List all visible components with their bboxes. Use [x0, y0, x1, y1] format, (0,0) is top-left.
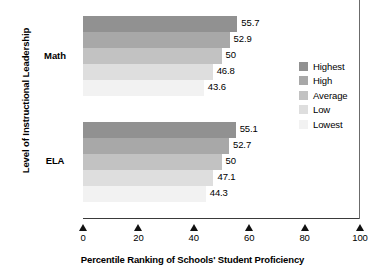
bar-row: 47.1	[83, 170, 360, 186]
bar-value-math-highest: 55.7	[241, 17, 259, 28]
triangle-marker-icon	[134, 224, 142, 231]
y-axis-title: Level of Instructional Leadership	[20, 1, 31, 201]
legend-item-lowest: Lowest	[299, 117, 348, 132]
legend-item-highest: Highest	[299, 59, 348, 74]
x-tick-100: 100	[340, 224, 380, 243]
x-axis-line	[83, 218, 360, 219]
x-tick-80: 80	[285, 224, 325, 243]
legend-label: Average	[313, 90, 348, 101]
plot-right-border	[359, 0, 360, 219]
legend-label: Highest	[313, 61, 345, 72]
category-label-ela: ELA	[30, 155, 80, 166]
legend-swatch-icon	[299, 62, 308, 71]
bar-row: 44.3	[83, 186, 360, 202]
bar-ela-average	[83, 154, 222, 170]
legend-label: Lowest	[313, 119, 343, 130]
x-tick-label: 80	[285, 232, 325, 243]
bar-row: 52.7	[83, 138, 360, 154]
bar-value-ela-lowest: 44.3	[210, 187, 228, 198]
bar-value-math-average: 50	[226, 49, 236, 60]
legend-swatch-icon	[299, 120, 308, 129]
bar-value-math-lowest: 43.6	[208, 81, 226, 92]
bar-value-math-high: 52.9	[234, 33, 252, 44]
x-tick-label: 0	[63, 232, 103, 243]
x-tick-60: 60	[229, 224, 269, 243]
bar-chart: Level of Instructional Leadership Math E…	[0, 0, 385, 276]
bar-value-math-low: 46.8	[217, 65, 235, 76]
x-tick-0: 0	[63, 224, 103, 243]
bar-row: 52.9	[83, 32, 360, 48]
bar-math-highest	[83, 16, 237, 32]
bar-group-ela: 55.1 52.7 50 47.1 44.3	[83, 122, 360, 202]
bar-row: 55.7	[83, 16, 360, 32]
x-tick-label: 100	[340, 232, 380, 243]
legend: Highest High Average Low Lowest	[299, 59, 348, 132]
bar-value-ela-highest: 55.1	[240, 123, 258, 134]
legend-swatch-icon	[299, 105, 308, 114]
bar-value-ela-low: 47.1	[217, 171, 235, 182]
bar-math-average	[83, 48, 222, 64]
triangle-marker-icon	[190, 224, 198, 231]
legend-item-high: High	[299, 74, 348, 89]
bar-ela-low	[83, 170, 213, 186]
bar-ela-highest	[83, 122, 236, 138]
triangle-marker-icon	[301, 224, 309, 231]
bar-ela-lowest	[83, 186, 206, 202]
x-tick-label: 20	[118, 232, 158, 243]
x-axis-title: Percentile Ranking of Schools' Student P…	[0, 254, 385, 265]
bar-math-high	[83, 32, 230, 48]
legend-item-average: Average	[299, 88, 348, 103]
triangle-marker-icon	[356, 224, 364, 231]
bar-math-lowest	[83, 80, 204, 96]
bar-value-ela-high: 52.7	[233, 139, 251, 150]
legend-label: Low	[313, 104, 330, 115]
legend-swatch-icon	[299, 91, 308, 100]
legend-swatch-icon	[299, 76, 308, 85]
bar-value-ela-average: 50	[226, 155, 236, 166]
x-tick-label: 40	[174, 232, 214, 243]
category-label-math: Math	[30, 50, 80, 61]
bar-math-low	[83, 64, 213, 80]
legend-label: High	[313, 75, 332, 86]
bar-row: 50	[83, 154, 360, 170]
x-tick-label: 60	[229, 232, 269, 243]
bar-ela-high	[83, 138, 229, 154]
legend-item-low: Low	[299, 103, 348, 118]
x-tick-40: 40	[174, 224, 214, 243]
triangle-marker-icon	[245, 224, 253, 231]
x-tick-20: 20	[118, 224, 158, 243]
triangle-marker-icon	[79, 224, 87, 231]
